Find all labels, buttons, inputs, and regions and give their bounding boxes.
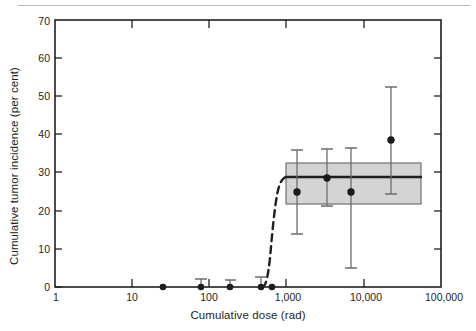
x-tick-label: 1,000	[275, 291, 301, 303]
y-axis-tick-labels: 0 10 20 30 40 50 60 70	[38, 15, 50, 293]
x-tick-label: 100	[200, 291, 218, 303]
data-point-markers	[160, 136, 395, 290]
y-tick-label: 60	[38, 52, 50, 64]
y-tick-label: 0	[44, 281, 50, 293]
y-tick-label: 30	[38, 166, 50, 178]
x-tick-label: 1	[53, 291, 59, 303]
figure-container: 0 10 20 30 40 50 60 70	[0, 0, 476, 331]
plateau-confidence-band	[286, 163, 421, 204]
y-tick-label: 10	[38, 243, 50, 255]
y-tick-label: 40	[38, 128, 50, 140]
right-axis-ticks	[434, 58, 441, 249]
x-tick-label: 10	[126, 291, 138, 303]
x-axis-tick-labels: 1 10 100 1,000 10,000 100,000	[53, 291, 463, 303]
data-point	[347, 188, 354, 195]
plot-frame	[55, 20, 441, 287]
y-axis-ticks	[55, 58, 62, 287]
chart-plot-area: 0 10 20 30 40 50 60 70	[0, 0, 476, 331]
x-tick-label: 100,000	[425, 291, 463, 303]
y-tick-label: 70	[38, 15, 50, 27]
data-point	[323, 174, 330, 181]
data-point	[387, 136, 394, 143]
x-tick-label: 10,000	[350, 291, 382, 303]
y-axis-title: Cumulative tumor incidence (per cent)	[8, 36, 20, 296]
y-tick-label: 20	[38, 205, 50, 217]
data-point	[293, 188, 300, 195]
x-axis-ticks	[132, 279, 364, 287]
y-tick-label: 50	[38, 90, 50, 102]
x-axis-title: Cumulative dose (rad)	[55, 309, 441, 321]
x-axis-ticks-top	[132, 20, 364, 28]
